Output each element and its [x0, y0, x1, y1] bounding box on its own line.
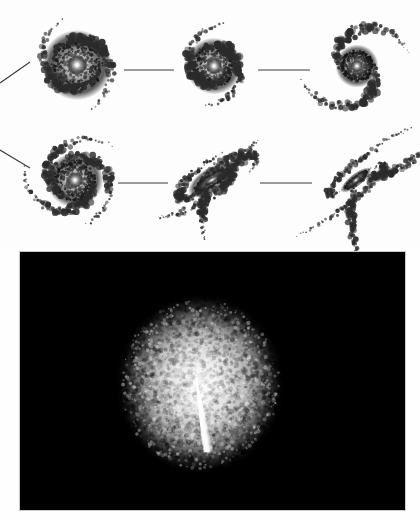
- noise-speckle: [273, 375, 276, 378]
- arm-clump: [329, 104, 335, 110]
- noise-speckle: [269, 360, 272, 363]
- arm-clump: [163, 216, 165, 218]
- arm-clump: [217, 103, 220, 106]
- noise-speckle: [279, 412, 281, 414]
- arm-clump: [339, 206, 343, 210]
- bulge-particle: [66, 79, 69, 82]
- noise-speckle: [235, 364, 239, 368]
- noise-speckle: [166, 371, 169, 374]
- arm-clump: [253, 141, 256, 144]
- noise-speckle: [181, 315, 183, 317]
- noise-speckle: [193, 339, 197, 343]
- noise-speckle: [281, 389, 285, 393]
- noise-speckle: [237, 342, 238, 343]
- arm-clump: [48, 32, 51, 35]
- noise-speckle: [181, 352, 182, 353]
- noise-speckle: [149, 424, 152, 427]
- arm-clump: [228, 72, 229, 73]
- noise-speckle: [163, 391, 165, 393]
- bulge-particle: [77, 161, 80, 164]
- bulge-particle: [58, 51, 60, 53]
- noise-speckle: [245, 386, 247, 388]
- galaxy-sequence-panel: [0, 0, 420, 246]
- noise-speckle: [172, 367, 176, 371]
- noise-speckle: [143, 317, 145, 319]
- noise-speckle: [150, 330, 152, 332]
- bulge-particle: [370, 70, 372, 72]
- noise-speckle: [280, 406, 283, 409]
- arm-clump: [46, 178, 50, 182]
- noise-speckle: [185, 473, 187, 475]
- noise-speckle: [272, 363, 274, 365]
- noise-speckle: [209, 465, 212, 468]
- arm-clump: [232, 87, 235, 90]
- noise-speckle: [227, 435, 230, 438]
- noise-speckle: [158, 428, 160, 430]
- bulge-particle: [368, 74, 370, 76]
- arm-clump: [339, 173, 344, 178]
- arm-clump: [47, 161, 51, 165]
- bulge-particle: [84, 186, 86, 188]
- bulge-particle: [64, 63, 66, 65]
- noise-speckle: [209, 392, 211, 394]
- arm-clump: [370, 167, 371, 168]
- arm-clump: [214, 192, 218, 196]
- arm-clump: [204, 29, 208, 33]
- bulge-particle: [73, 79, 75, 81]
- arm-clump: [45, 38, 49, 42]
- noise-speckle: [246, 431, 247, 432]
- bulge-particle: [71, 165, 73, 167]
- noise-speckle: [188, 338, 190, 340]
- noise-speckle: [153, 327, 155, 329]
- arm-clump: [41, 51, 45, 55]
- noise-speckle: [143, 337, 147, 341]
- arm-clump: [333, 213, 335, 215]
- noise-speckle: [150, 313, 155, 318]
- arm-clump: [199, 181, 200, 182]
- bulge-particle: [59, 181, 61, 183]
- noise-speckle: [131, 347, 134, 350]
- noise-speckle: [175, 425, 178, 428]
- noise-speckle: [243, 319, 245, 321]
- bulge-particle: [214, 183, 216, 185]
- arm-clump: [204, 229, 206, 231]
- noise-speckle: [164, 340, 166, 342]
- arm-clump: [320, 98, 324, 102]
- arm-clump: [220, 173, 223, 176]
- arm-clump: [110, 67, 114, 71]
- bulge-particle: [221, 74, 223, 76]
- bulge-particle: [93, 63, 94, 64]
- noise-speckle: [266, 379, 269, 382]
- noise-speckle: [251, 397, 253, 399]
- noise-speckle: [131, 385, 135, 389]
- noise-speckle: [166, 465, 170, 469]
- noise-speckle: [122, 379, 124, 381]
- arm-clump: [379, 26, 382, 29]
- noise-speckle: [172, 363, 175, 366]
- bulge-particle: [54, 59, 57, 62]
- noise-speckle: [184, 308, 189, 313]
- noise-speckle: [178, 459, 181, 462]
- arm-clump: [309, 227, 312, 230]
- arm-clump: [379, 143, 381, 145]
- galaxy-sequence-canvas: [0, 0, 420, 246]
- noise-speckle: [203, 333, 205, 335]
- noise-speckle: [212, 467, 216, 471]
- arm-clump: [98, 99, 101, 102]
- bulge-particle: [84, 188, 86, 190]
- noise-speckle: [258, 396, 260, 398]
- noise-speckle: [257, 400, 259, 402]
- noise-speckle: [250, 431, 253, 434]
- bulge-particle: [67, 188, 69, 190]
- noise-speckle: [203, 307, 205, 309]
- arm-clump: [201, 190, 202, 191]
- noise-speckle: [163, 410, 166, 413]
- noise-speckle: [171, 410, 175, 414]
- noise-speckle: [116, 389, 121, 394]
- noise-speckle: [156, 314, 161, 319]
- noise-speckle: [164, 419, 166, 421]
- noise-speckle: [154, 382, 159, 387]
- noise-speckle: [138, 392, 141, 395]
- noise-speckle: [145, 369, 147, 371]
- noise-speckle: [256, 386, 258, 388]
